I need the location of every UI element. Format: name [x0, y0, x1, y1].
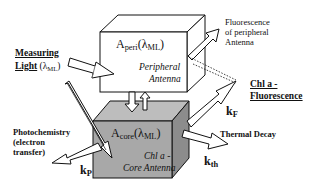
chl-fluorescence-label-2: Fluorescence [250, 92, 303, 102]
peripheral-fluorescence-label-1: Fluorescence [225, 18, 270, 27]
thermal-decay-label: Thermal Decay [220, 130, 276, 139]
kf-rate-label: kF [226, 105, 238, 120]
photochemistry-label-3: transfer) [13, 148, 45, 157]
peripheral-absorbance-label: Aperi(λML) [116, 38, 164, 53]
peripheral-fluorescence-label-2: of peripheral [225, 28, 269, 37]
core-antenna-name-2: Core Antenna [123, 164, 176, 174]
photochemistry-label-2: (electron [13, 138, 45, 147]
measuring-light-label-1: Measuring [15, 49, 59, 59]
measuring-light-label-2: Light (λML) [15, 62, 60, 72]
chl-fluorescence-label-1: Chl a - [250, 80, 277, 90]
photochemistry-label-1: Photochemistry [13, 128, 70, 137]
antenna-diagram: Aperi(λML) Peripheral Antenna Acore(λML)… [0, 0, 315, 192]
kp-rate-label: kP [80, 164, 92, 179]
core-absorbance-label: Acore(λML) [111, 127, 160, 142]
kth-rate-label: kth [204, 155, 218, 170]
peripheral-fluorescence-label-3: Antenna [225, 38, 254, 47]
core-antenna-name-1: Chl a - [144, 152, 170, 162]
peripheral-antenna-name-2: Antenna [149, 75, 181, 85]
peripheral-antenna-name-1: Peripheral [139, 63, 180, 73]
